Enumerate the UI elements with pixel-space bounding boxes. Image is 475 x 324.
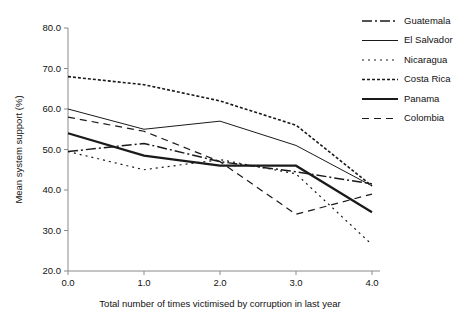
chart-legend: GuatemalaEl SalvadorNicaraguaCosta RicaP… — [362, 15, 453, 124]
series-line-panama — [68, 133, 372, 212]
legend-label-panama: Panama — [404, 93, 440, 104]
y-tick-label: 80.0 — [43, 22, 62, 33]
series-lines — [68, 77, 372, 245]
x-axis-title: Total number of times victimised by corr… — [99, 298, 340, 309]
x-tick-label: 1.0 — [137, 277, 150, 288]
series-line-costa-rica — [68, 77, 372, 186]
legend-label-costa-rica: Costa Rica — [404, 73, 451, 84]
y-tick-label: 60.0 — [43, 103, 62, 114]
y-tick-label: 50.0 — [43, 144, 62, 155]
y-axis-title: Mean system support (%) — [13, 95, 24, 203]
line-chart: 20.030.040.050.060.070.080.0 0.01.02.03.… — [0, 0, 475, 324]
x-axis: 0.01.02.03.04.0 — [61, 271, 380, 288]
x-tick-label: 0.0 — [61, 277, 74, 288]
y-tick-label: 30.0 — [43, 225, 62, 236]
x-tick-label: 4.0 — [365, 277, 378, 288]
legend-label-nicaragua: Nicaragua — [404, 54, 448, 65]
chart-container: 20.030.040.050.060.070.080.0 0.01.02.03.… — [0, 0, 475, 324]
legend-label-el-salvador: El Salvador — [404, 34, 453, 45]
x-tick-label: 2.0 — [213, 277, 226, 288]
y-tick-label: 70.0 — [43, 63, 62, 74]
y-tick-label: 40.0 — [43, 184, 62, 195]
x-tick-label: 3.0 — [289, 277, 302, 288]
y-axis: 20.030.040.050.060.070.080.0 — [43, 22, 69, 276]
legend-label-colombia: Colombia — [404, 112, 445, 123]
y-tick-label: 20.0 — [43, 265, 62, 276]
legend-label-guatemala: Guatemala — [404, 15, 451, 26]
